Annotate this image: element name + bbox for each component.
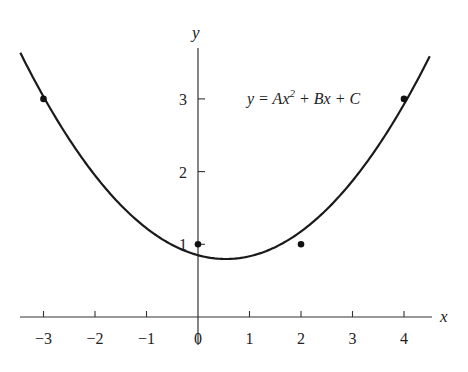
x-tick-label: 3 [349, 330, 357, 347]
x-tick-label: −2 [86, 330, 103, 347]
axes [20, 48, 432, 345]
y-tick-label: 3 [179, 91, 187, 108]
x-tick-label: 1 [246, 330, 254, 347]
chart: −3−2−101234 123 x y y = Ax2 + Bx + C [0, 0, 468, 372]
data-point [40, 96, 47, 103]
data-point [298, 241, 305, 248]
y-tick-label: 2 [179, 164, 187, 181]
x-axis-label: x [439, 307, 448, 326]
x-tick-label: 0 [194, 330, 202, 347]
y-ticks: 123 [179, 91, 205, 253]
x-tick-label: 4 [400, 330, 408, 347]
data-point [195, 241, 202, 248]
equation-label: y = Ax2 + Bx + C [245, 87, 360, 108]
parabola-curve [20, 53, 429, 259]
x-tick-label: −1 [138, 330, 155, 347]
data-points [40, 96, 407, 248]
x-tick-label: 2 [297, 330, 305, 347]
y-axis-label: y [190, 23, 200, 42]
data-point [401, 96, 408, 103]
x-tick-label: −3 [35, 330, 52, 347]
